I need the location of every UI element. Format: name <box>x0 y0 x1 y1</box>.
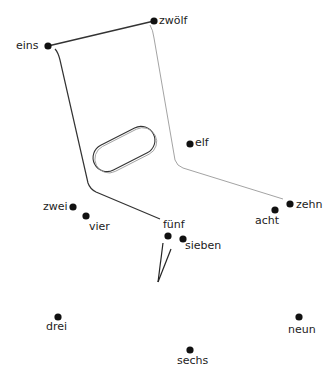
point-dot-acht <box>271 206 278 213</box>
left-frame-line <box>55 49 160 219</box>
point-label-neun: neun <box>288 324 316 336</box>
point-dot-vier <box>82 212 89 219</box>
diagram-canvas: eins zwölf elf zwei vier fünf sieben zeh… <box>0 0 335 385</box>
point-label-elf: elf <box>195 137 209 149</box>
top-edge-line <box>48 21 154 46</box>
point-label-zehn: zehn <box>296 199 323 211</box>
point-dot-fuenf <box>164 232 171 239</box>
point-label-drei: drei <box>46 321 67 333</box>
point-dot-elf <box>186 140 193 147</box>
right-frame-line <box>150 25 283 199</box>
point-label-eins: eins <box>16 40 39 52</box>
point-label-zwoelf: zwölf <box>159 15 187 27</box>
point-dot-zwoelf <box>150 17 157 24</box>
point-label-acht: acht <box>255 215 279 227</box>
point-label-zwei: zwei <box>43 201 68 213</box>
handle-slot <box>88 121 161 178</box>
point-dot-neun <box>295 313 302 320</box>
point-dot-zwei <box>69 203 76 210</box>
point-label-sieben: sieben <box>185 240 221 252</box>
point-dot-eins <box>44 42 51 49</box>
point-label-sechs: sechs <box>177 355 208 367</box>
point-label-fuenf: fünf <box>163 219 185 231</box>
point-label-vier: vier <box>89 221 110 233</box>
point-dot-sechs <box>186 346 193 353</box>
point-dot-zehn <box>286 200 293 207</box>
